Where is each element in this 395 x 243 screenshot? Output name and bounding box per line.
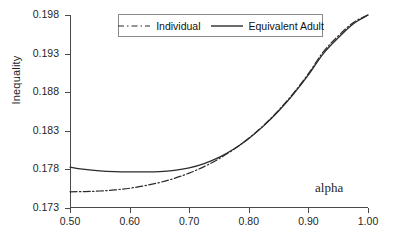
chart-legend: Individual Equivalent Adult — [118, 14, 323, 37]
x-tick-label: 0.80 — [231, 215, 267, 227]
x-tick-label: 0.60 — [112, 215, 148, 227]
alpha-annotation: alpha — [315, 180, 343, 196]
legend-label-equivalent-adult: Equivalent Adult — [249, 20, 324, 32]
legend-label-individual: Individual — [156, 20, 200, 32]
y-tick-label: 0.188 — [33, 85, 59, 97]
x-tick-mark — [130, 208, 131, 213]
y-tick-label: 0.173 — [33, 201, 59, 213]
chart-figure: Inequality 0.1730.1780.1830.1880.1930.19… — [0, 0, 395, 243]
x-tick-mark — [249, 208, 250, 213]
x-tick-label: 0.70 — [171, 215, 207, 227]
x-tick-mark — [189, 208, 190, 213]
x-tick-label: 0.90 — [290, 215, 326, 227]
legend-item-equivalent-adult: Equivalent Adult — [210, 20, 324, 32]
legend-item-individual: Individual — [117, 20, 200, 32]
y-axis-title: Inequality — [10, 20, 22, 140]
y-tick-label: 0.198 — [33, 8, 59, 20]
y-tick-label: 0.178 — [33, 162, 59, 174]
x-tick-mark — [368, 208, 369, 213]
legend-swatch-solid-icon — [210, 22, 244, 30]
x-tick-label: 0.50 — [52, 215, 88, 227]
x-tick-mark — [308, 208, 309, 213]
x-tick-label: 1.00 — [350, 215, 386, 227]
y-tick-label: 0.183 — [33, 124, 59, 136]
legend-swatch-dash-dot-icon — [117, 22, 151, 30]
x-tick-mark — [70, 208, 71, 213]
y-tick-label: 0.193 — [33, 47, 59, 59]
